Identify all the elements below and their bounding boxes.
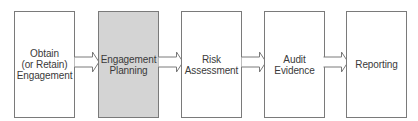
step-label: Engagement Planning xyxy=(101,54,157,76)
arrow-right-icon xyxy=(74,51,100,73)
step-risk-assessment: Risk Assessment xyxy=(181,11,242,118)
audit-process-flow-diagram: Obtain (or Retain) Engagement Engagement… xyxy=(0,0,418,121)
step-audit-evidence: Audit Evidence xyxy=(264,11,325,118)
step-obtain-engagement: Obtain (or Retain) Engagement xyxy=(14,11,75,118)
step-label: Obtain (or Retain) Engagement xyxy=(17,48,73,81)
step-label: Reporting xyxy=(355,59,397,70)
step-engagement-planning: Engagement Planning xyxy=(98,11,159,118)
step-label: Audit Evidence xyxy=(274,54,314,76)
step-reporting: Reporting xyxy=(346,11,407,118)
step-label: Risk Assessment xyxy=(185,54,238,76)
